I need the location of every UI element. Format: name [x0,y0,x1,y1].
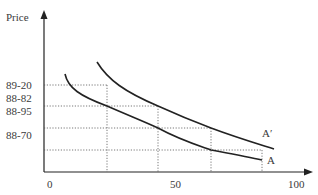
y-axis-arrow-icon [41,10,48,19]
x-axis-arrow-icon [304,169,313,176]
curve-label-a: A [267,154,275,166]
y-axis-label: Price [6,11,29,23]
x-tick-label-50: 50 [170,178,182,190]
curve-label-a-prime: A′ [262,127,272,139]
x-tick-label-100: 100 [288,178,305,190]
guide-lines [44,85,262,172]
y-tick-label-4: 88-70 [6,129,32,141]
x-tick-label-0: 0 [47,178,53,190]
curve-a-prime [97,62,274,149]
y-tick-label-3: 88-95 [6,105,32,117]
y-tick-label-2: 88-82 [6,92,32,104]
y-tick-label-1: 89-20 [6,79,32,91]
price-chart: Price 89-20 88-82 88-95 88-70 0 50 100 A… [0,0,318,195]
curve-a [65,74,262,160]
